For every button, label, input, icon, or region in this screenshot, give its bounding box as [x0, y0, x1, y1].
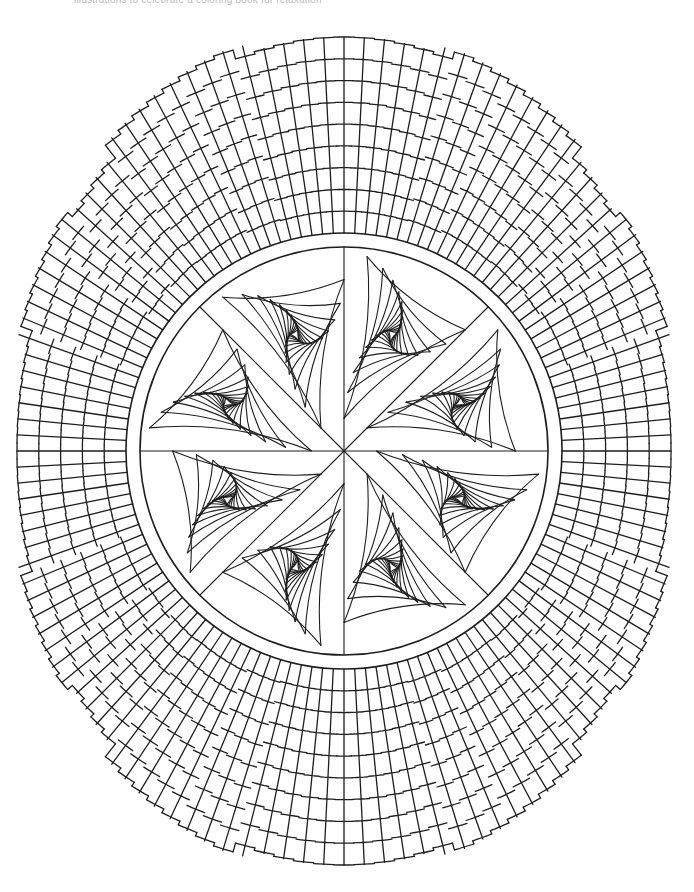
- mandala-artwork: [0, 0, 694, 892]
- spiral-petals: [140, 247, 548, 655]
